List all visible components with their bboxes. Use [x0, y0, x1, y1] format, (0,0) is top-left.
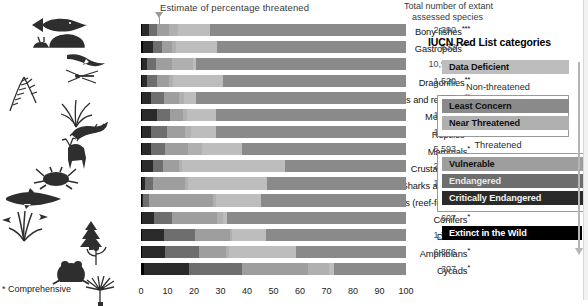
axis-tick-90: 90: [374, 286, 384, 296]
bar-segment-dd: [188, 177, 268, 189]
stacked-bar[interactable]: [141, 109, 406, 121]
legend-chip-vulnerable[interactable]: Vulnerable: [442, 157, 586, 171]
legend-label-endangered: Endangered: [449, 176, 501, 186]
stacked-bar[interactable]: [141, 212, 406, 224]
totals-column-header: Total number of extant assessed species: [404, 1, 514, 22]
bar-segment-cr: [142, 24, 149, 36]
bar-row: Conifers*607: [0, 210, 470, 227]
bar-segment-vu: [149, 194, 213, 206]
bar-segment-en: [147, 58, 157, 70]
totals-header-line2: assessed species: [404, 12, 514, 23]
bar-row: Gastropods***633: [0, 39, 470, 56]
bar-segment-cr: [142, 92, 151, 104]
bar-row: Sharks and rays*1,091: [0, 176, 470, 193]
window-edge-scrollbar[interactable]: [583, 0, 588, 300]
bar-segment-en: [157, 109, 170, 121]
stacked-bar[interactable]: [141, 194, 406, 206]
stacked-bar[interactable]: [141, 177, 406, 189]
legend-label-extinct-in-the-wild: Extinct in the Wild: [449, 228, 527, 238]
bar-segment-lc: [210, 24, 406, 36]
axis-tick-60: 60: [295, 286, 305, 296]
chart-title: Estimate of percentage threatened: [160, 2, 370, 13]
bar-rows: Bony fishes***2,390Gastropods***633Birds…: [0, 22, 470, 278]
axis-tick-100: 100: [398, 286, 413, 296]
legend-chip-least-concern[interactable]: Least Concern: [442, 99, 569, 113]
bar-segment-vu: [164, 92, 179, 104]
bar-segment-dd: [216, 194, 261, 206]
bar-segment-cr: [142, 212, 154, 224]
bar-segment-dd: [184, 92, 196, 104]
bar-segment-cr: [142, 109, 157, 121]
bar-row: Dicots***1,781: [0, 227, 470, 244]
bar-segment-lc: [261, 194, 406, 206]
bar-segment-lc: [334, 263, 406, 275]
axis-tick-70: 70: [321, 286, 331, 296]
legend-chip-data-deficient[interactable]: Data Deficient: [442, 60, 569, 74]
bar-segment-cr: [142, 126, 151, 138]
bar-segment-vu: [157, 24, 169, 36]
totals-header-line1: Total number of extant: [404, 1, 514, 12]
bar-segment-nt: [188, 143, 203, 155]
bar-segment-vu: [167, 126, 186, 138]
bar-segment-dd: [229, 246, 295, 258]
legend-group-non-threatened: Non-threatened: [428, 82, 568, 92]
cycad-icon: [84, 276, 116, 306]
stacked-bar[interactable]: [141, 143, 406, 155]
bar-segment-cr: [144, 263, 189, 275]
stacked-bar[interactable]: [141, 126, 406, 138]
bar-segment-en: [151, 126, 167, 138]
stacked-bar[interactable]: [141, 160, 406, 172]
bar-segment-en: [149, 24, 157, 36]
legend-chip-critically-endangered[interactable]: Critically Endangered: [442, 191, 586, 205]
stacked-bar[interactable]: [141, 58, 406, 70]
axis-tick-10: 10: [162, 286, 172, 296]
bar-row: Monocots**1,026: [0, 107, 470, 124]
stacked-bar[interactable]: [141, 246, 406, 258]
bar-segment-vu: [153, 177, 185, 189]
bar-segment-cr: [142, 246, 165, 258]
legend-label-near-threatened: Near Threatened: [449, 118, 520, 128]
legend-chip-endangered[interactable]: Endangered: [442, 174, 586, 188]
legend-chip-near-threatened[interactable]: Near Threatened: [442, 116, 569, 130]
bar-segment-vu: [162, 41, 171, 53]
stacked-bar[interactable]: [141, 41, 406, 53]
bar-row: Dragonflies**1,520: [0, 73, 470, 90]
bar-segment-en: [164, 229, 196, 241]
bar-segment-vu: [156, 58, 172, 70]
row-total-count: 2,390: [412, 25, 456, 35]
stacked-bar[interactable]: [141, 24, 406, 36]
legend-label-data-deficient: Data Deficient: [449, 62, 509, 72]
bar-segment-lc: [217, 41, 406, 53]
stacked-bar[interactable]: [141, 229, 406, 241]
bar-segment-dd: [178, 24, 210, 36]
bar-segment-dd: [232, 229, 265, 241]
bar-row: Reptiles**1,500: [0, 125, 470, 142]
bar-segment-en: [151, 143, 166, 155]
bar-segment-en: [165, 246, 199, 258]
stacked-bar[interactable]: [141, 263, 406, 275]
bar-row: Ferns and relatives**972: [0, 90, 470, 107]
bar-segment-en: [153, 41, 162, 53]
stacked-bar[interactable]: [141, 75, 406, 87]
bar-segment-vu: [157, 75, 169, 87]
bar-segment-vu: [242, 263, 308, 275]
bar-segment-lc: [296, 246, 406, 258]
legend-chip-extinct-in-the-wild[interactable]: Extinct in the Wild: [442, 226, 582, 240]
bar-segment-lc: [266, 229, 406, 241]
bar-segment-vu: [199, 246, 226, 258]
bar-segment-lc: [216, 126, 406, 138]
bar-segment-dd: [191, 126, 216, 138]
bar-segment-en: [145, 177, 153, 189]
bar-segment-en: [153, 160, 164, 172]
legend-label-least-concern: Least Concern: [449, 101, 512, 111]
x-axis: 0102030405060708090100: [141, 286, 406, 298]
axis-tick-20: 20: [189, 286, 199, 296]
bar-row: Cycads*307: [0, 261, 470, 278]
bar-segment-cr: [142, 160, 153, 172]
bar-row: Crustaceans***2,872: [0, 159, 470, 176]
legend-title: IUCN Red List categories: [428, 36, 586, 48]
legend-panel: IUCN Red List categories Data Deficient …: [428, 36, 586, 286]
bar-segment-en: [189, 263, 242, 275]
footnote: * Comprehensive: [2, 284, 71, 294]
stacked-bar[interactable]: [141, 92, 406, 104]
